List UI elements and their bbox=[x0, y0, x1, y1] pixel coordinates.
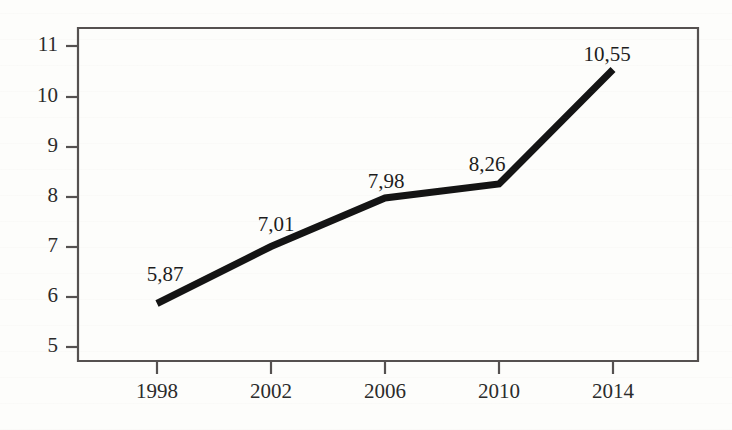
y-tick-label-6: 6 bbox=[48, 283, 59, 307]
point-label-2014: 10,55 bbox=[583, 42, 630, 66]
y-tick-label-9: 9 bbox=[48, 133, 59, 157]
x-tick-label-2010: 2010 bbox=[478, 379, 520, 403]
y-tick-label-7: 7 bbox=[48, 233, 59, 257]
y-tick-label-8: 8 bbox=[48, 183, 59, 207]
y-tick-label-5: 5 bbox=[48, 333, 59, 357]
point-label-2006: 7,98 bbox=[368, 169, 405, 193]
line-chart: 11 10 9 8 7 6 5 1998 2002 2006 2010 2014 bbox=[0, 0, 732, 430]
x-tick-label-2006: 2006 bbox=[364, 379, 406, 403]
point-label-2002: 7,01 bbox=[258, 212, 295, 236]
x-tick-label-1998: 1998 bbox=[136, 379, 178, 403]
chart-canvas: 11 10 9 8 7 6 5 1998 2002 2006 2010 2014 bbox=[0, 0, 732, 430]
x-tick-label-2014: 2014 bbox=[592, 379, 635, 403]
y-tick-label-11: 11 bbox=[38, 32, 58, 56]
point-label-1998: 5,87 bbox=[147, 262, 184, 286]
point-label-2010: 8,26 bbox=[469, 152, 506, 176]
y-tick-label-10: 10 bbox=[37, 83, 58, 107]
x-tick-label-2002: 2002 bbox=[250, 379, 292, 403]
